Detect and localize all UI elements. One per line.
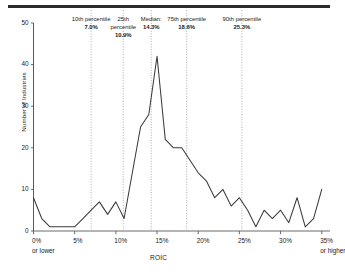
- data-series-line: [34, 56, 322, 227]
- y-tick-label-3: 30: [15, 102, 29, 109]
- percentile-annotation-name-3-0: 75th percentile: [158, 15, 216, 23]
- y-tick-label-2: 20: [15, 144, 29, 151]
- x-tick-label-3: 15%: [156, 237, 169, 244]
- x-tick-label-5: 25%: [238, 237, 251, 244]
- x-tick-label-0: 0%: [32, 237, 41, 244]
- percentile-annotation-value-1: 10.9%: [94, 31, 152, 39]
- percentile-annotation-value-4: 25.3%: [213, 23, 271, 31]
- x-tick-sublabel-0: or lower: [32, 247, 55, 254]
- x-tick-label-4: 20%: [197, 237, 210, 244]
- x-tick-label-1: 5%: [73, 237, 82, 244]
- y-tick-label-0: 0: [15, 227, 29, 234]
- x-tick-label-6: 30%: [279, 237, 292, 244]
- y-tick-label-4: 40: [15, 60, 29, 67]
- percentile-annotation-value-3: 18.6%: [158, 23, 216, 31]
- y-tick-label-5: 50: [15, 19, 29, 26]
- percentile-annotation-3: 75th percentile18.6%: [158, 15, 216, 31]
- percentile-annotation-name-4-0: 90th percentile: [213, 15, 271, 23]
- y-tick-label-1: 10: [15, 185, 29, 192]
- x-tick-label-7: 35%: [320, 237, 333, 244]
- percentile-annotation-4: 90th percentile25.3%: [213, 15, 271, 31]
- x-tick-label-2: 10%: [114, 237, 127, 244]
- x-tick-sublabel-7: or higher: [320, 247, 345, 254]
